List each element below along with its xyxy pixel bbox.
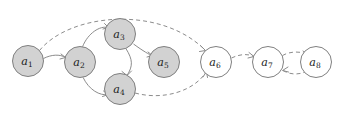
arrowhead-a1-a6-near-a6	[200, 46, 206, 52]
node-circle-a6[interactable]	[201, 47, 232, 78]
node-a4[interactable]: a4	[105, 74, 136, 105]
nodes-layer: a1a2a3a4a5a6a7a8	[13, 19, 332, 105]
edge-a3-a5	[134, 44, 153, 56]
node-circle-a1[interactable]	[13, 46, 44, 77]
node-a6[interactable]: a6	[201, 47, 232, 78]
node-a3[interactable]: a3	[105, 19, 136, 50]
node-circle-a5[interactable]	[149, 47, 180, 78]
graph-figure: a1a2a3a4a5a6a7a8	[0, 0, 345, 114]
node-circle-a3[interactable]	[105, 19, 136, 50]
node-circle-a2[interactable]	[65, 47, 96, 78]
node-a1[interactable]: a1	[13, 46, 44, 77]
node-circle-a7[interactable]	[253, 47, 284, 78]
node-a5[interactable]: a5	[149, 47, 180, 78]
node-circle-a8[interactable]	[301, 47, 332, 78]
edge-a2-a3	[83, 27, 109, 47]
node-a7[interactable]: a7	[253, 47, 284, 78]
graph-canvas: a1a2a3a4a5a6a7a8	[0, 0, 345, 114]
node-a8[interactable]: a8	[301, 47, 332, 78]
node-circle-a4[interactable]	[105, 74, 136, 105]
node-a2[interactable]: a2	[65, 47, 96, 78]
